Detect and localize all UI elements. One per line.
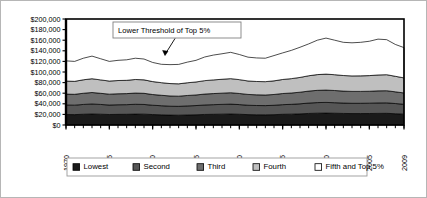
y-tick-label: $100,000 [31,68,61,77]
legend-label-third[interactable]: Third [208,162,226,171]
chart-card: 197019751980198519901995200020052009 $0$… [5,6,423,193]
legend-group: LowestSecondThirdFourthFifth and Top 5% [67,158,384,176]
y-tick-label: $20,000 [35,110,61,119]
image-frame: 197019751980198519901995200020052009 $0$… [0,0,427,198]
y-tick-label: $60,000 [35,89,61,98]
legend-label-lowest[interactable]: Lowest [84,162,110,171]
legend-label-fourth[interactable]: Fourth [264,162,287,171]
annotation-group: Lower Threshold of Top 5% [113,22,241,56]
legend-swatch-third[interactable] [197,164,204,171]
legend-swatch-lowest[interactable] [73,164,80,171]
area-bands-group [66,38,404,125]
annotation-arrowhead [163,50,168,55]
legend-swatch-fifth-and-top-5[interactable] [315,164,322,171]
chart-plot-area: 197019751980198519901995200020052009 $0$… [5,6,423,193]
legend-label-fifth-and-top-5[interactable]: Fifth and Top 5% [326,162,384,171]
y-tick-label: $40,000 [35,99,61,108]
y-tick-labels-group: $0$20,000$40,000$60,000$80,000$100,000$1… [31,15,66,130]
annotation-label: Lower Threshold of Top 5% [118,26,210,35]
y-tick-label: $180,000 [31,25,61,34]
stacked-area-chart: 197019751980198519901995200020052009 $0$… [5,6,423,193]
legend-swatch-second[interactable] [133,164,140,171]
y-tick-label: $160,000 [31,36,61,45]
y-tick-label: $140,000 [31,46,61,55]
legend-swatch-fourth[interactable] [253,164,260,171]
y-tick-label: $200,000 [31,15,61,24]
y-tick-label: $120,000 [31,57,61,66]
legend-label-second[interactable]: Second [144,162,170,171]
area-band-lowest [66,113,404,125]
x-tick-label: 2009 [400,155,409,171]
y-tick-label: $0 [53,121,61,130]
y-tick-label: $80,000 [35,78,61,87]
